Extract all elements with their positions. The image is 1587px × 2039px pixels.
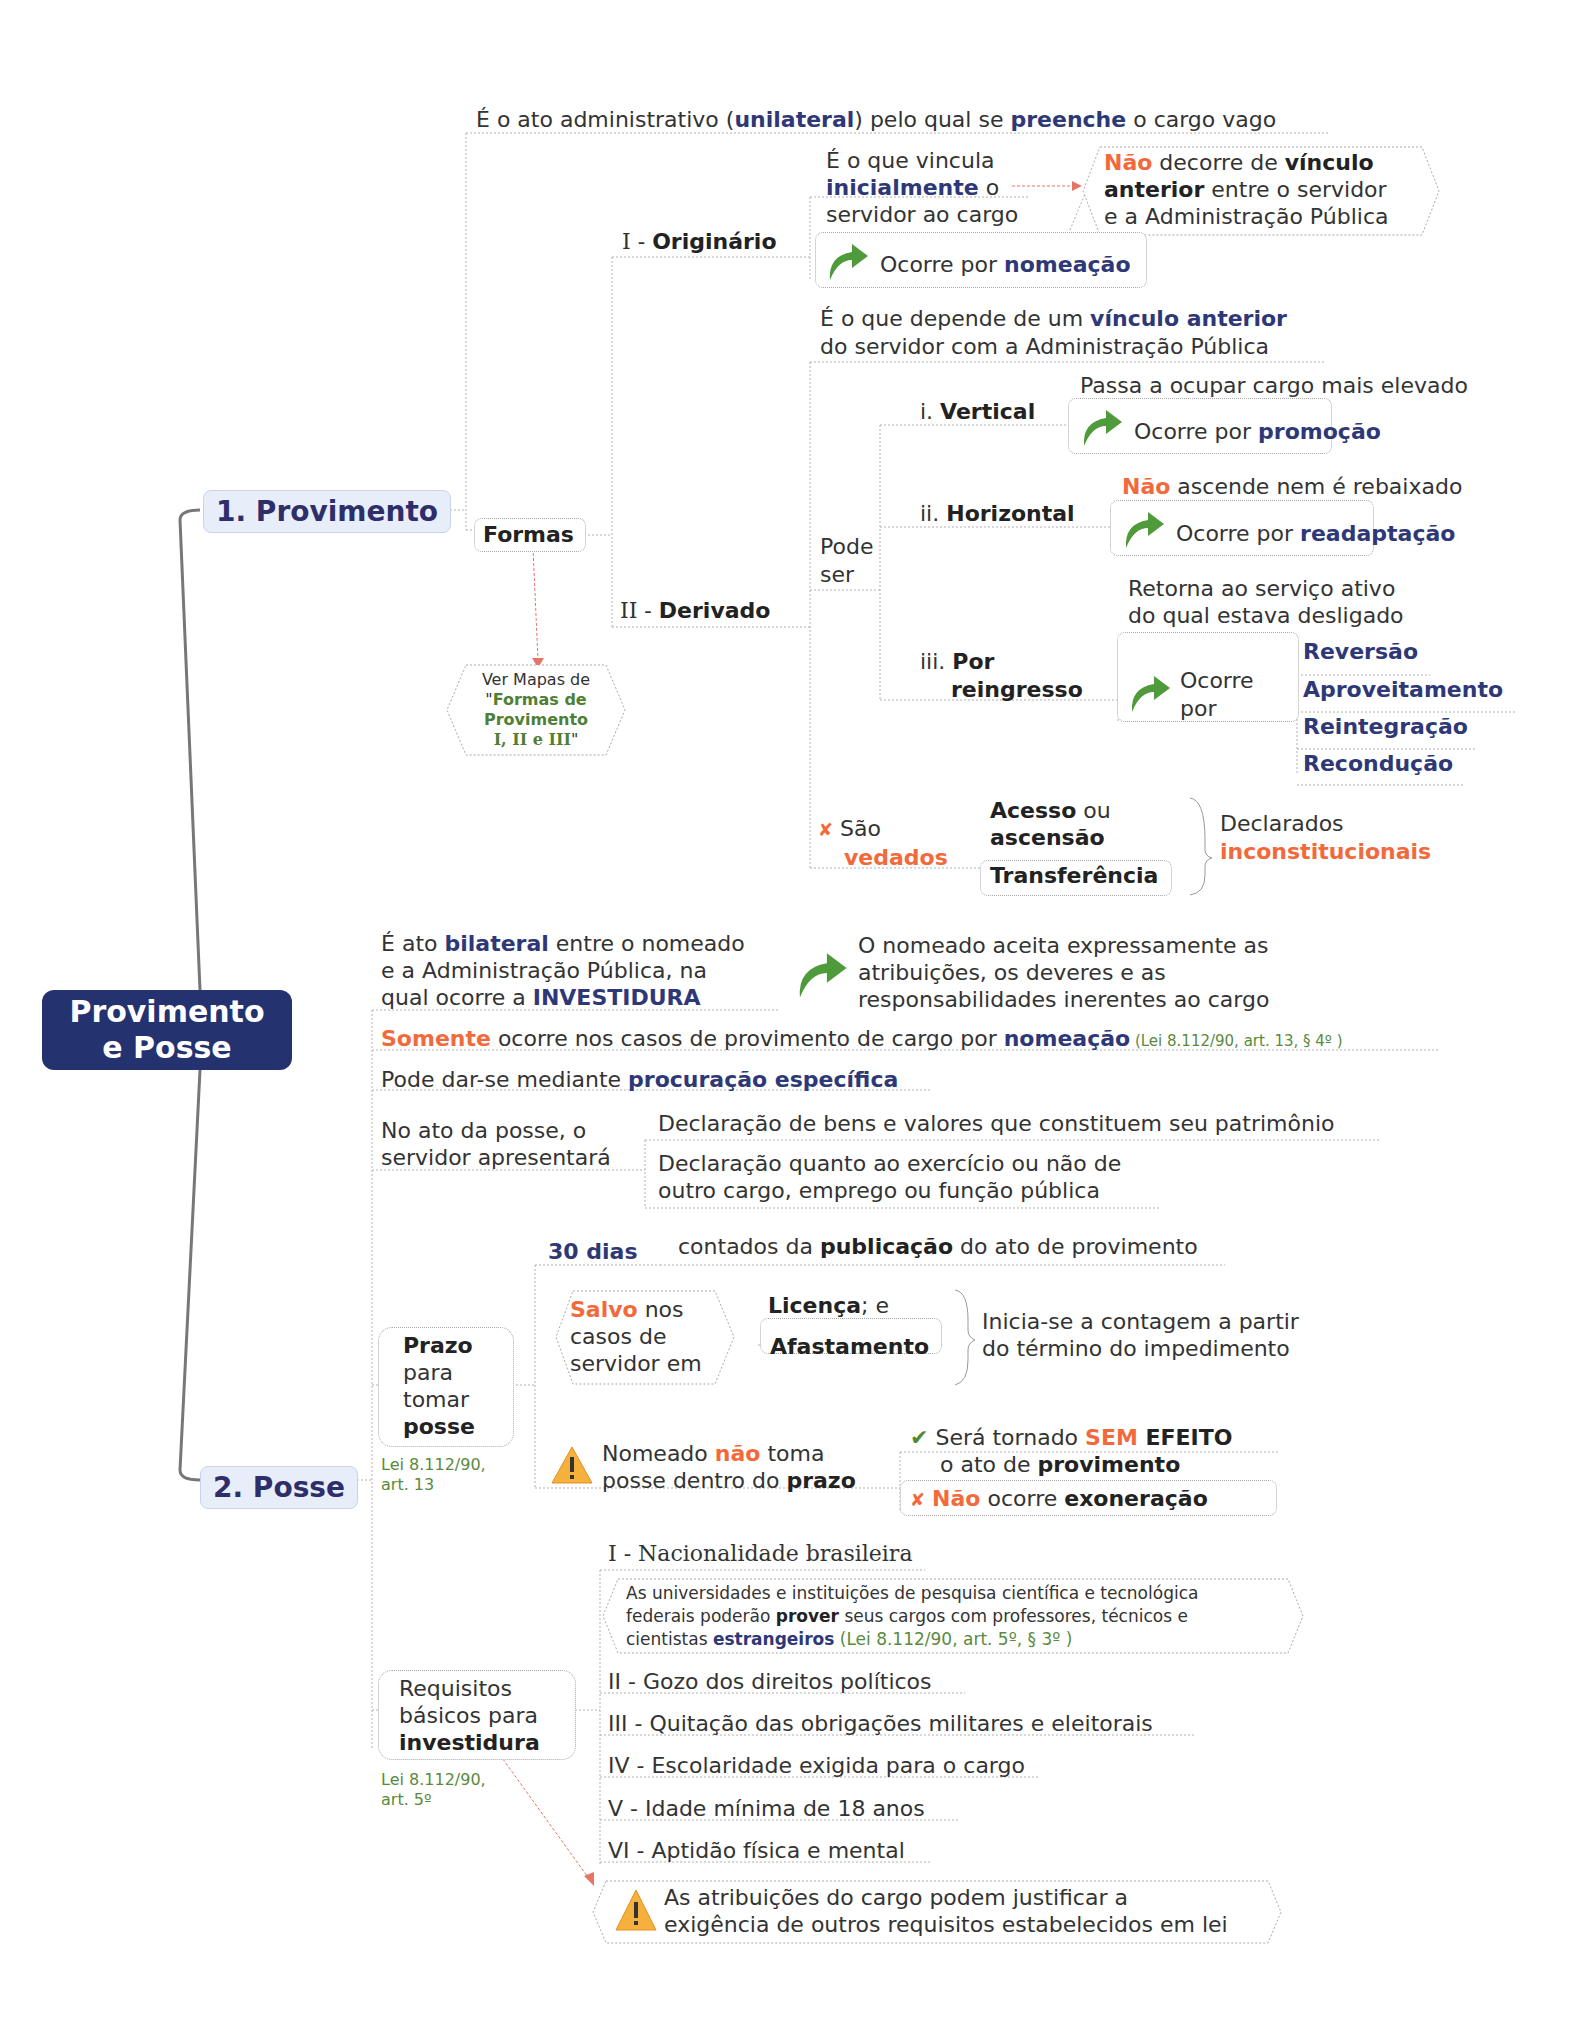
see-maps-note[interactable]: Ver Mapas de "Formas de Provimento I, II… xyxy=(446,670,626,750)
x-mark-icon: ✘ xyxy=(818,819,833,840)
posse-bilateral: É ato bilateral entre o nomeado e a Admi… xyxy=(381,930,745,1011)
nao-toma-posse: Nomeado não toma posse dentro do prazo xyxy=(602,1440,856,1494)
vertical-description: Passa a ocupar cargo mais elevado xyxy=(1080,372,1468,399)
afastamento: Afastamento xyxy=(770,1333,929,1360)
x-mark-icon: ✘ xyxy=(910,1489,925,1510)
contados-publicacao: contados da publicação do ato de provime… xyxy=(678,1233,1198,1260)
originario-node[interactable]: I - Originário xyxy=(622,228,777,255)
posse-apresentara: No ato da posse, o servidor apresentará xyxy=(381,1117,611,1171)
estrangeiros-note: As universidades e instituições de pesqu… xyxy=(626,1582,1198,1651)
horizontal-node[interactable]: ii. Horizontal xyxy=(920,500,1075,527)
root-title-line1: Provimento xyxy=(69,994,264,1030)
formas-label: Formas xyxy=(483,521,574,548)
reingresso-item[interactable]: Recondução xyxy=(1303,750,1453,777)
posse-somente: Somente ocorre nos casos de provimento d… xyxy=(381,1025,1343,1055)
requisito-item: III - Quitação das obrigações militares … xyxy=(608,1710,1153,1737)
requisitos-ref: Lei 8.112/90, art. 5º xyxy=(381,1770,486,1810)
requisito-item: VI - Aptidão física e mental xyxy=(608,1837,905,1864)
originario-description: É o que vincula inicialmente o servidor … xyxy=(826,147,1018,228)
prazo-node[interactable]: Prazo para tomar posse xyxy=(378,1327,514,1447)
horizontal-description: Não ascende nem é rebaixado xyxy=(1122,473,1462,500)
sem-efeito: ✔ Será tornado SEM EFEITO o ato de provi… xyxy=(910,1424,1232,1478)
green-curved-arrow-icon xyxy=(1128,670,1172,714)
green-curved-arrow-icon xyxy=(1122,506,1166,550)
reingresso-node[interactable]: iii. Por reingresso xyxy=(920,648,1083,704)
reingresso-description: Retorna ao serviço ativo do qual estava … xyxy=(1128,575,1404,629)
posse-node[interactable]: 2. Posse xyxy=(200,1466,358,1509)
root-title-line2: e Posse xyxy=(69,1030,264,1066)
declaracao-exercicio: Declaração quanto ao exercício ou não de… xyxy=(658,1150,1121,1204)
green-curved-arrow-icon xyxy=(1080,404,1124,448)
green-curved-arrow-icon xyxy=(795,946,849,1000)
warning-icon xyxy=(550,1445,594,1485)
reingresso-item[interactable]: Aproveitamento xyxy=(1303,676,1503,703)
vertical-node[interactable]: i. Vertical xyxy=(920,398,1035,425)
outros-requisitos-warning: As atribuições do cargo podem justificar… xyxy=(664,1884,1228,1938)
prazo-ref: Lei 8.112/90, art. 13 xyxy=(381,1455,486,1495)
derivado-description: É o que depende de um vínculo anterior d… xyxy=(820,305,1287,361)
provimento-node[interactable]: 1. Provimento xyxy=(203,490,451,533)
requisitos-node[interactable]: Requisitos básicos para investidura xyxy=(378,1670,576,1760)
salvo-casos: Salvo nos casos de servidor em xyxy=(570,1296,702,1377)
reingresso-occurs: Ocorre por xyxy=(1180,667,1254,723)
warning-icon xyxy=(614,1888,658,1934)
requisito-item: IV - Escolaridade exigida para o cargo xyxy=(608,1752,1025,1779)
reingresso-item[interactable]: Reversão xyxy=(1303,638,1418,665)
vertical-occurs: Ocorre por promoção xyxy=(1134,418,1381,445)
declarados-inconstitucionais: Declarados inconstitucionais xyxy=(1220,810,1431,866)
posse-accepts: O nomeado aceita expressamente as atribu… xyxy=(858,932,1269,1013)
root-node[interactable]: Provimento e Posse xyxy=(42,990,292,1070)
acesso-ascensao: Acesso ou ascensão xyxy=(990,797,1111,851)
trinta-dias: 30 dias xyxy=(548,1238,638,1265)
licenca: Licença; e xyxy=(768,1292,889,1319)
horizontal-occurs: Ocorre por readaptação xyxy=(1176,520,1455,547)
provimento-definition: É o ato administrativo (unilateral) pelo… xyxy=(476,106,1276,133)
green-curved-arrow-icon xyxy=(826,238,870,282)
formas-node[interactable]: Formas xyxy=(474,518,586,552)
originario-note: Não decorre de vínculo anterior entre o … xyxy=(1104,149,1388,230)
inicia-contagem: Inicia-se a contagem a partir do término… xyxy=(982,1308,1299,1362)
reingresso-item[interactable]: Reintegração xyxy=(1303,713,1468,740)
derivado-node[interactable]: II - Derivado xyxy=(620,597,770,624)
nao-exoneracao: ✘ Não ocorre exoneração xyxy=(910,1485,1208,1513)
requisito-item: II - Gozo dos direitos políticos xyxy=(608,1668,932,1695)
requisito-item: V - Idade mínima de 18 anos xyxy=(608,1795,925,1822)
transferencia: Transferência xyxy=(990,862,1158,889)
pode-ser-label: Pode ser xyxy=(820,533,873,589)
requisito-item: I - Nacionalidade brasileira xyxy=(608,1540,913,1567)
vedados-node[interactable]: ✘ São vedados xyxy=(818,815,948,872)
check-icon: ✔ xyxy=(910,1425,928,1450)
declaracao-bens: Declaração de bens e valores que constit… xyxy=(658,1110,1335,1137)
originario-occurs: Ocorre por nomeação xyxy=(880,251,1131,278)
posse-procuracao: Pode dar-se mediante procuração específi… xyxy=(381,1066,898,1093)
